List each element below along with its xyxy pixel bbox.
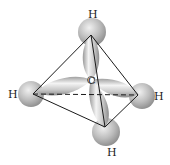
carbon-atom: C <box>88 75 97 86</box>
hydrogen-label-right: H <box>154 90 164 103</box>
hydrogen-label-left: H <box>8 88 18 101</box>
carbon-label: C <box>88 75 96 86</box>
hydrogen-label-top: H <box>88 8 98 21</box>
hydrogen-label-bottom: H <box>107 146 117 159</box>
sp3-orbital-lobes <box>36 36 138 128</box>
orbital-lobe-left <box>36 77 91 96</box>
methane-tetrahedron-diagram: C H H H H <box>0 0 170 165</box>
edge-right-bottom <box>105 95 138 127</box>
hydrogen-sphere-left <box>18 81 44 107</box>
